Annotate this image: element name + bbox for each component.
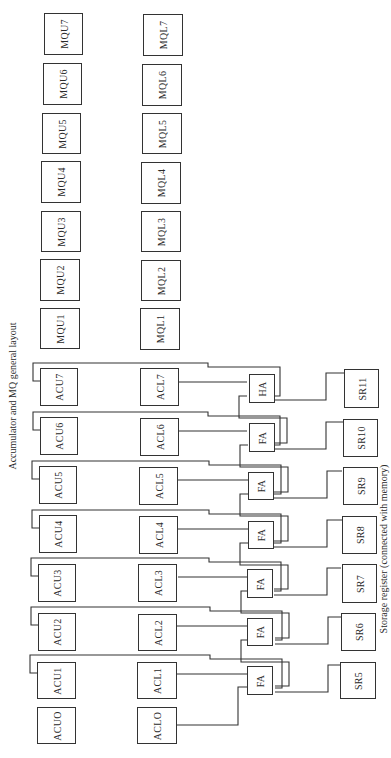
- mqu2-box: MQU2: [40, 259, 80, 301]
- mqu6-box: MQU6: [43, 63, 82, 105]
- mql7-box: MQL7: [143, 14, 183, 56]
- fa1-box: FA: [247, 666, 273, 695]
- fa6-box: FA: [249, 423, 275, 452]
- sr11-box: SR11: [344, 369, 379, 408]
- acu3-box: ACU3: [38, 564, 76, 602]
- sr5-box: SR5: [340, 662, 376, 699]
- diagram-title: Accumulator and MQ general layout: [7, 322, 18, 469]
- fa4-box: FA: [248, 521, 274, 549]
- acu6-box: ACU6: [40, 417, 78, 455]
- sr10-box: SR10: [343, 419, 378, 457]
- mqu1-box: MQU1: [40, 308, 80, 349]
- mql6-box: MQL6: [142, 64, 182, 106]
- mql4-box: MQL4: [141, 162, 181, 204]
- acl5-box: ACL5: [139, 467, 178, 505]
- acl1-box: ACL1: [137, 662, 177, 699]
- acl2-box: ACL2: [138, 614, 177, 651]
- acu4-box: ACU4: [39, 515, 77, 553]
- sr9-box: SR9: [343, 467, 378, 505]
- acl4-box: ACL4: [139, 516, 178, 554]
- acu5-box: ACU5: [39, 466, 77, 504]
- mqu4-box: MQU4: [41, 161, 81, 203]
- mql5-box: MQL5: [142, 113, 182, 154]
- mqu5-box: MQU5: [42, 113, 81, 154]
- sr8-box: SR8: [342, 516, 377, 554]
- acu0-box: ACUO: [37, 707, 76, 744]
- ha7-box: HA: [249, 374, 275, 403]
- sr6-box: SR6: [341, 613, 376, 651]
- fa2-box: FA: [247, 618, 273, 646]
- acl3-box: ACL3: [138, 564, 177, 602]
- acl7-box: ACL7: [140, 368, 179, 406]
- acu2-box: ACU2: [38, 613, 76, 651]
- acu1-box: ACU1: [37, 662, 76, 699]
- acu7-box: ACU7: [40, 368, 78, 406]
- acl0-box: ACLO: [137, 707, 177, 744]
- mql3-box: MQL3: [141, 211, 181, 252]
- fa3-box: FA: [247, 569, 273, 598]
- mql2-box: MQL2: [141, 260, 181, 301]
- accumulator-mq-diagram: Accumulator and MQ general layout Storag…: [0, 0, 391, 758]
- storage-register-caption: Storage register (connected with memory): [378, 465, 389, 634]
- mqu3-box: MQU3: [41, 211, 81, 252]
- fa5-box: FA: [248, 472, 274, 500]
- mqu7-box: MQU7: [44, 13, 83, 55]
- sr7-box: SR7: [342, 564, 377, 603]
- acl6-box: ACL6: [140, 418, 179, 456]
- mql1-box: MQL1: [140, 308, 180, 350]
